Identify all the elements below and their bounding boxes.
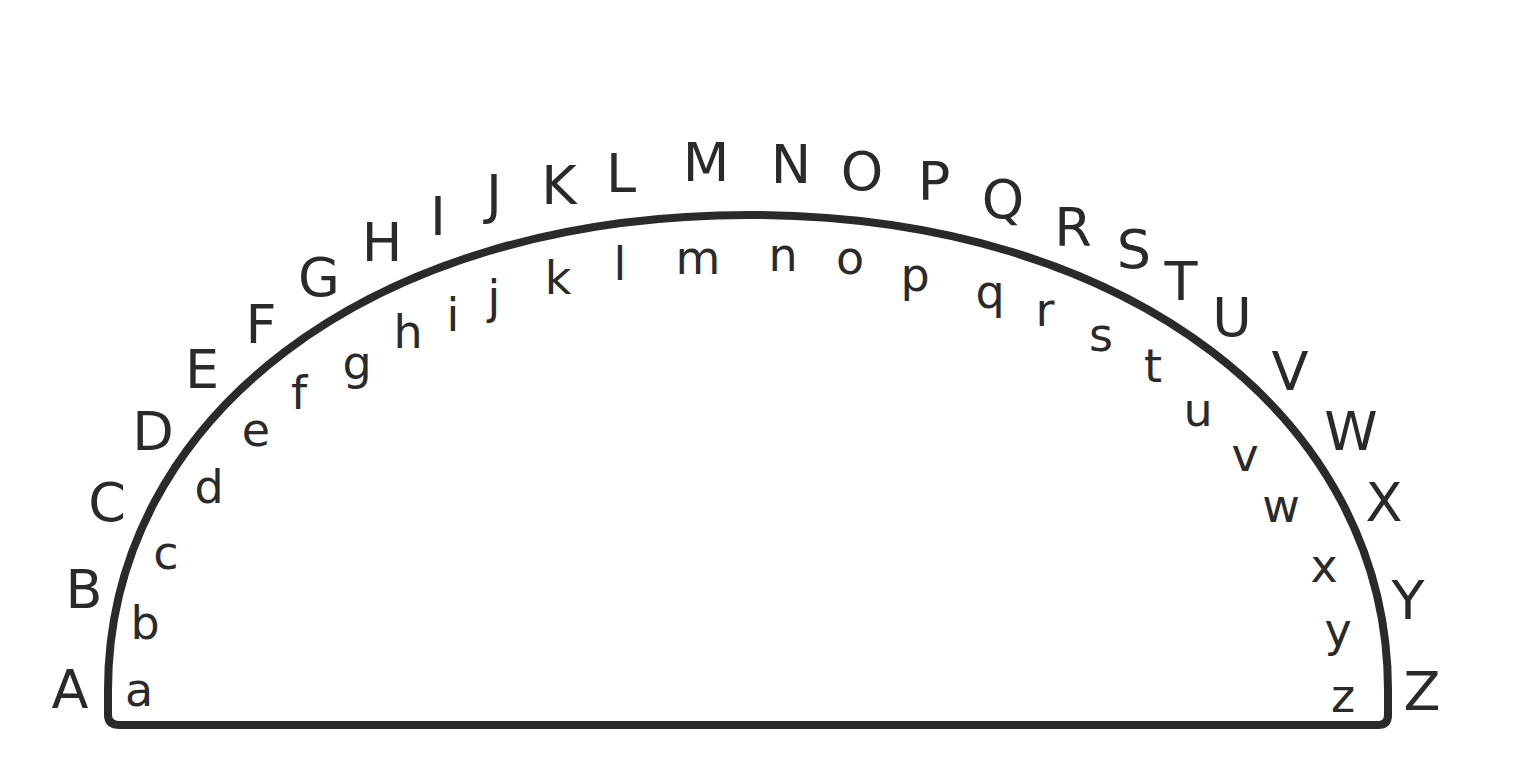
- uppercase-letter-J: J: [486, 168, 502, 222]
- uppercase-letter-P: P: [918, 155, 951, 209]
- lowercase-letter-z: z: [1331, 673, 1355, 719]
- uppercase-letter-I: I: [430, 190, 446, 244]
- lowercase-letter-e: e: [242, 407, 270, 453]
- uppercase-letter-A: A: [52, 663, 89, 717]
- uppercase-letter-W: W: [1324, 405, 1377, 459]
- lowercase-letter-v: v: [1231, 432, 1258, 478]
- lowercase-letter-p: p: [900, 252, 929, 298]
- lowercase-letter-l: l: [614, 241, 627, 287]
- lowercase-letter-j: j: [488, 274, 501, 320]
- lowercase-letter-y: y: [1324, 607, 1351, 653]
- lowercase-letter-u: u: [1183, 387, 1212, 433]
- lowercase-letter-x: x: [1310, 543, 1337, 589]
- uppercase-letter-C: C: [88, 476, 126, 530]
- uppercase-letter-L: L: [606, 147, 636, 201]
- uppercase-letter-R: R: [1054, 201, 1092, 255]
- uppercase-letter-T: T: [1165, 255, 1198, 309]
- lowercase-letter-t: t: [1144, 343, 1162, 389]
- uppercase-letter-N: N: [771, 138, 811, 192]
- uppercase-letter-G: G: [298, 251, 340, 305]
- lowercase-letter-n: n: [768, 232, 797, 278]
- lowercase-letter-w: w: [1262, 483, 1300, 529]
- uppercase-letter-X: X: [1366, 476, 1403, 530]
- lowercase-letter-f: f: [291, 370, 307, 416]
- lowercase-letter-r: r: [1036, 287, 1055, 333]
- uppercase-letter-S: S: [1117, 223, 1151, 277]
- uppercase-letter-H: H: [362, 216, 403, 270]
- lowercase-letter-i: i: [447, 292, 460, 338]
- lowercase-letter-d: d: [194, 464, 223, 510]
- lowercase-letter-q: q: [975, 269, 1004, 315]
- uppercase-letter-U: U: [1212, 291, 1252, 345]
- lowercase-letter-s: s: [1089, 312, 1113, 358]
- uppercase-letter-B: B: [65, 563, 102, 617]
- lowercase-letter-o: o: [836, 235, 864, 281]
- uppercase-letter-M: M: [683, 136, 730, 190]
- uppercase-letter-K: K: [541, 159, 576, 213]
- uppercase-letter-O: O: [841, 145, 884, 199]
- lowercase-letter-a: a: [125, 667, 153, 713]
- uppercase-letter-E: E: [185, 343, 219, 397]
- uppercase-letter-Z: Z: [1404, 665, 1441, 719]
- uppercase-letter-D: D: [132, 405, 174, 459]
- lowercase-letter-b: b: [130, 600, 159, 646]
- uppercase-letter-F: F: [245, 298, 276, 352]
- lowercase-letter-m: m: [676, 235, 721, 281]
- uppercase-letter-V: V: [1272, 345, 1309, 399]
- uppercase-letter-Y: Y: [1392, 574, 1425, 628]
- lowercase-letter-c: c: [153, 530, 178, 576]
- alphabet-arc-diagram: ABCDEFGHIJKLMNOPQRSTUVWXYZabcdefghijklmn…: [0, 0, 1521, 769]
- uppercase-letter-Q: Q: [982, 173, 1025, 227]
- lowercase-letter-g: g: [342, 340, 371, 386]
- lowercase-letter-h: h: [393, 309, 422, 355]
- lowercase-letter-k: k: [545, 255, 572, 301]
